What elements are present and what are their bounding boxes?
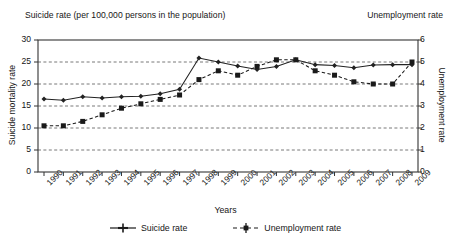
data-point-marker [332, 73, 337, 78]
data-point-marker [61, 98, 66, 103]
data-point-marker [410, 60, 415, 65]
data-point-marker [371, 82, 376, 87]
series-line-suicide-rate [44, 58, 412, 100]
data-point-marker [255, 64, 260, 69]
data-point-marker [119, 94, 124, 99]
data-point-marker [216, 60, 221, 65]
data-point-marker [61, 123, 66, 128]
x-axis-title: Years [0, 205, 451, 215]
data-point-marker [138, 94, 143, 99]
data-point-marker [274, 57, 279, 62]
data-point-marker [196, 77, 201, 82]
chart-figure: Suicide rate (per 100,000 persons in the… [0, 0, 451, 243]
data-point-marker [332, 63, 337, 68]
data-point-marker [158, 91, 163, 96]
data-point-marker [119, 106, 124, 111]
legend-label-suicide-rate: Suicide rate [141, 224, 187, 233]
legend-marker-plus-icon [110, 222, 136, 234]
data-point-marker [293, 57, 298, 62]
data-point-marker [138, 101, 143, 106]
legend-marker-square-icon [233, 222, 259, 234]
data-point-marker [80, 119, 85, 124]
data-point-marker [371, 63, 376, 68]
chart-legend: Suicide rate Unemployment rate [0, 222, 451, 234]
data-point-marker [80, 94, 85, 99]
data-point-marker [177, 93, 182, 98]
legend-item-suicide-rate: Suicide rate [110, 222, 187, 234]
data-point-marker [313, 68, 318, 73]
data-point-marker [351, 79, 356, 84]
data-point-marker [100, 96, 105, 101]
data-point-marker [196, 56, 201, 61]
data-point-marker [351, 65, 356, 70]
data-point-marker [235, 73, 240, 78]
series-line-unemployment-rate [44, 60, 412, 126]
data-point-marker [42, 96, 47, 101]
data-point-marker [235, 63, 240, 68]
data-point-marker [390, 82, 395, 87]
data-point-marker [390, 62, 395, 67]
data-point-marker [274, 64, 279, 69]
data-point-marker [158, 97, 163, 102]
data-point-marker [216, 68, 221, 73]
data-point-marker [100, 112, 105, 117]
data-point-marker [177, 87, 182, 92]
legend-item-unemployment-rate: Unemployment rate [233, 222, 341, 234]
data-point-marker [42, 123, 47, 128]
legend-label-unemployment-rate: Unemployment rate [264, 224, 341, 233]
data-point-marker [313, 62, 318, 67]
